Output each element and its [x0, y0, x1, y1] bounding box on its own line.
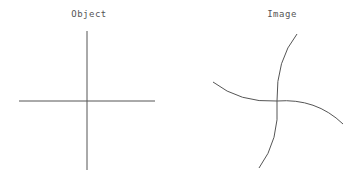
image-distorted-cross	[213, 34, 343, 168]
image-lower-curve	[259, 101, 277, 168]
image-left-curve	[213, 82, 277, 101]
image-right-curve	[277, 101, 343, 124]
object-cross	[19, 31, 155, 170]
image-upper-curve	[277, 34, 297, 101]
diagram-canvas	[0, 0, 360, 176]
